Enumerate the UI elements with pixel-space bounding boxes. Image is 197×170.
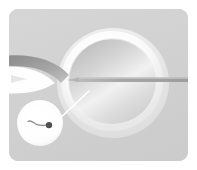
illustration-stage xyxy=(9,9,188,161)
injection-needle-highlight xyxy=(75,78,188,79)
magnifier-circle xyxy=(17,100,63,146)
sperm-head xyxy=(46,122,52,128)
illustration-root: Intracytoplasmic sperm injection xyxy=(0,0,197,170)
icsi-figure xyxy=(9,9,188,161)
illustration-panel xyxy=(9,9,188,161)
